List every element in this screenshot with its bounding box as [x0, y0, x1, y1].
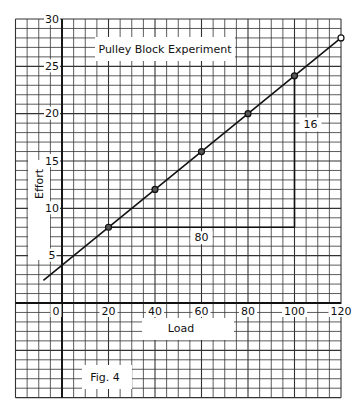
- chart-title: Pulley Block Experiment: [98, 43, 232, 56]
- data-point: [199, 149, 205, 155]
- labels: Pulley Block ExperimentEffortLoadFig. 40…: [28, 12, 354, 389]
- figure-annotation: Fig. 4: [90, 371, 120, 384]
- data-point: [292, 73, 298, 79]
- x-tick-label: 0: [53, 305, 60, 318]
- x-axis-label: Load: [168, 322, 194, 335]
- y-tick-label: 25: [45, 60, 59, 73]
- y-tick-label: 20: [45, 107, 59, 120]
- y-tick-label: 30: [45, 13, 59, 26]
- data-point: [152, 186, 158, 192]
- y-axis-label: Effort: [33, 168, 46, 199]
- x-tick-label: 120: [331, 305, 352, 318]
- x-tick-label: 80: [241, 305, 255, 318]
- data-point: [245, 111, 251, 117]
- data-point: [106, 224, 112, 230]
- y-tick-label: 5: [49, 249, 56, 262]
- y-tick-label: 10: [45, 202, 59, 215]
- x-tick-label: 100: [284, 305, 305, 318]
- y-tick-label: 15: [45, 155, 59, 168]
- x-tick-label: 60: [195, 305, 209, 318]
- x-tick-label: 20: [102, 305, 116, 318]
- triangle-horizontal-label: 80: [195, 231, 209, 244]
- x-tick-label: 40: [148, 305, 162, 318]
- data-point: [338, 35, 344, 41]
- chart: Pulley Block ExperimentEffortLoadFig. 40…: [0, 0, 364, 411]
- triangle-vertical-label: 16: [304, 118, 318, 131]
